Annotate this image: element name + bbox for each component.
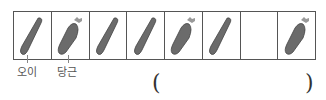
pattern-cell-8 — [278, 12, 315, 59]
cucumber-leader-line — [27, 55, 28, 63]
carrot-icon — [167, 14, 199, 58]
pattern-cell-1 — [14, 12, 52, 59]
pattern-cell-4 — [127, 12, 165, 59]
answer-field[interactable] — [165, 74, 305, 96]
pattern-cell-5 — [165, 12, 203, 59]
carrot-label: 당근 — [57, 63, 77, 79]
cucumber-label: 오이 — [17, 63, 37, 79]
cucumber-icon — [205, 14, 237, 58]
carrot-icon — [281, 14, 313, 58]
cucumber-icon — [130, 14, 162, 58]
pattern-strip — [13, 11, 316, 60]
pattern-cell-3 — [90, 12, 128, 59]
pattern-cell-7-blank[interactable] — [241, 12, 279, 59]
answer-paren-open: ( — [152, 70, 161, 95]
cucumber-icon — [16, 14, 48, 58]
carrot-icon — [54, 14, 86, 58]
cucumber-icon — [92, 14, 124, 58]
carrot-leader-line — [68, 55, 69, 63]
answer-paren-close: ) — [305, 70, 314, 95]
pattern-cell-2 — [52, 12, 90, 59]
pattern-cell-6 — [203, 12, 241, 59]
